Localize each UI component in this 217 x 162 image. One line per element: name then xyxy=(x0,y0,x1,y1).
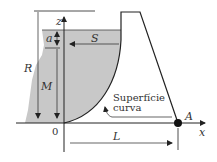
r-label: R xyxy=(23,62,32,75)
point-a xyxy=(174,119,182,127)
s-label: S xyxy=(91,32,99,45)
curve-label-line2: curva xyxy=(113,102,141,113)
z-axis-label: z xyxy=(55,15,62,28)
a-point-label: A xyxy=(184,110,193,123)
dam-diagram: z x 0 R M a S L A Superfície curva xyxy=(0,0,217,162)
m-label: M xyxy=(40,80,53,93)
l-label: L xyxy=(112,130,120,143)
origin-label: 0 xyxy=(52,126,58,137)
x-axis-label: x xyxy=(199,126,206,139)
a-label: a xyxy=(46,32,53,45)
